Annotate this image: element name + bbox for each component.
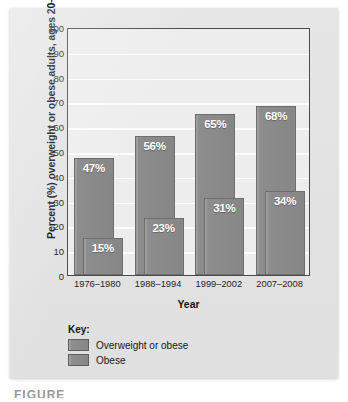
figure-caption-text: FIGURE [14,390,134,398]
bar-value-label: 31% [205,202,243,214]
figure-root: Percent (%) overweight or obese adults, … [0,0,348,402]
x-axis-tick-labels: 1976–19801988–19941999–20022007–2008 [67,279,310,295]
legend-item-label: Overweight or obese [96,340,188,351]
y-axis-tick-label: 0 [30,271,64,282]
x-axis-title: Year [67,298,310,310]
y-axis-tick-label: 10 [30,246,64,257]
y-axis-tick-label: 20 [30,221,64,232]
y-axis-tick-label: 60 [30,122,64,133]
legend-title: Key: [68,324,188,335]
y-axis-tick-label: 40 [30,171,64,182]
bar-value-label: 68% [257,110,295,122]
y-axis-tick-labels: 1009080706050403020100 [30,28,64,276]
legend-swatch-icon [68,339,89,351]
y-axis-tick-label: 90 [30,47,64,58]
legend-item-obese: Obese [68,354,188,366]
legend-swatch-icon [68,354,89,366]
bar-value-label: 65% [196,118,234,130]
bar-value-label: 56% [136,140,174,152]
figure-caption-clipped: FIGURE [14,390,134,398]
plot-area: 47%15%56%23%65%31%68%34% [67,28,310,276]
y-axis-tick-label: 80 [30,72,64,83]
y-axis-tick-label: 100 [30,23,64,34]
x-axis-tick-label: 1976–1980 [67,279,128,289]
bar-value-label: 47% [75,162,113,174]
legend-item-label: Obese [96,355,125,366]
legend: Key: Overweight or obese Obese [68,324,188,366]
bar-series-container: 47%15%56%23%65%31%68%34% [68,29,309,275]
chart-panel: Percent (%) overweight or obese adults, … [10,8,338,378]
bar-value-label: 34% [266,195,304,207]
bar-value-label: 23% [145,222,183,234]
bar-value-label: 15% [84,242,122,254]
legend-item-overweight-or-obese: Overweight or obese [68,339,188,351]
x-axis-tick-label: 1988–1994 [128,279,189,289]
y-axis-tick-label: 70 [30,97,64,108]
y-axis-tick-label: 50 [30,147,64,158]
x-axis-tick-label: 2007–2008 [249,279,310,289]
bar-obese: 23% [144,218,184,275]
y-axis-tick-label: 30 [30,196,64,207]
x-axis-tick-label: 1999–2002 [189,279,250,289]
bar-obese: 31% [204,198,244,275]
bar-obese: 15% [83,238,123,275]
bar-obese: 34% [265,191,305,275]
